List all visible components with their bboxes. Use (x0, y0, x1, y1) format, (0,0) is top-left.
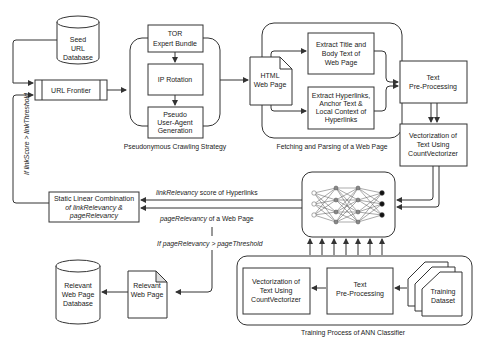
links-to-preproc-arrow (374, 86, 398, 111)
seed-url-database: Seed URL Database (57, 16, 99, 64)
seed-db-label-1: Seed (70, 36, 86, 43)
link-threshold-feedback-arrow (13, 95, 49, 203)
pseudo-ua-label-2: User-Agent (157, 119, 192, 127)
extract-title-label-2: Body Text of (322, 50, 360, 58)
extract-links-label-1: Extract Hyperlinks, (312, 92, 370, 100)
pseudo-ua-label-3: Generation (158, 127, 193, 134)
html-to-title-arrow (271, 51, 306, 57)
crawler-architecture-diagram: Seed URL Database URL Frontier TOR Exper… (0, 0, 479, 342)
html-label-2: Web Page (254, 81, 287, 89)
extract-links-label-4: Hyperlinks (325, 116, 358, 124)
tor-label-2: Expert Bundle (153, 40, 197, 48)
ann-classifier (302, 172, 395, 237)
tor-label-1: TOR (168, 30, 183, 37)
preproc-bottom-label-1: Text (354, 281, 367, 288)
relevant-db-label-3: Database (63, 300, 93, 307)
extract-title-label-1: Extract Title and (316, 41, 366, 48)
html-to-links-arrow (271, 105, 306, 111)
training-dataset: Training Dataset (408, 262, 462, 316)
relevant-db-label-1: Relevant (64, 282, 92, 289)
link-relevancy-label: linkRelevancy score of Hyperlinks (156, 189, 258, 197)
training-caption: Training Process of ANN Classifier (301, 329, 406, 337)
url-frontier-label: URL Frontier (51, 87, 91, 94)
dataset-label-1: Training (430, 288, 455, 296)
vector-top-label-2: Text Using (417, 141, 450, 149)
extract-links-label-3: Local Context of (316, 108, 367, 115)
url-frontier: URL Frontier (35, 80, 107, 100)
text-preprocessing-top (400, 61, 467, 103)
pseudo-ua-label-1: Pseudo (163, 111, 187, 118)
preproc-top-label-2: Pre-Processing (409, 83, 457, 91)
static-label-1: Static Linear Combination (54, 195, 134, 202)
dataset-label-2: Dataset (431, 297, 455, 304)
static-label-2: of linkRelevancy & (65, 204, 123, 212)
page-threshold-label: If pageRelevancy > pageThreshold (157, 240, 263, 248)
relevant-db-label-2: Web Page (62, 291, 95, 299)
extract-title-label-3: Web Page (325, 59, 358, 67)
page-relevancy-label: pageRelevancy of a Web Page (159, 215, 254, 223)
preproc-top-label-1: Text (427, 74, 440, 81)
fetching-caption: Fetching and Parsing of a Web Page (277, 143, 388, 151)
vector-bottom-label-2: Text Using (260, 287, 293, 295)
training-to-ann-arrows (310, 239, 382, 255)
vector-top-label-1: Vectorization of (409, 132, 457, 139)
extract-links-label-2: Anchor Text & (319, 100, 363, 107)
to-relevant-page-arrow (176, 250, 212, 292)
pseudonymous-caption: Pseudonymous Crawling Strategy (124, 143, 227, 151)
relevant-page-label-1: Relevant (133, 282, 161, 289)
ip-rotation-label: IP Rotation (158, 76, 193, 83)
vector-bottom-label-1: Vectorization of (252, 278, 300, 285)
vector-bottom-label-3: CountVectorizer (251, 296, 301, 303)
relevant-page-label-2: Web Page (131, 291, 164, 299)
relevant-web-page: Relevant Web Page (128, 271, 167, 318)
title-to-preproc-arrow (374, 51, 398, 82)
seed-to-frontier-arrow (13, 40, 57, 83)
seed-db-label-3: Database (63, 54, 93, 61)
relevant-web-page-database: Relevant Web Page Database (56, 260, 100, 324)
vector-top-label-3: CountVectorizer (408, 150, 458, 157)
vector-to-ann-arrow-1 (397, 166, 433, 200)
link-threshold-label: If linkScore > linkThreshold (23, 93, 30, 175)
html-web-page: HTML Web Page (250, 57, 292, 105)
preproc-bottom-label-2: Pre-Processing (336, 290, 384, 298)
html-label-1: HTML (260, 72, 279, 79)
static-label-3: pageRelevancy (69, 212, 119, 220)
seed-db-label-2: URL (71, 45, 85, 52)
